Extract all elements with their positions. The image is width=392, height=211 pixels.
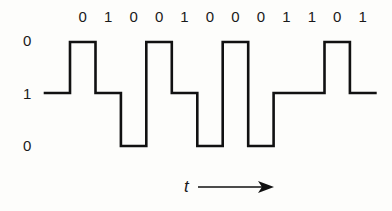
bit-label: 1: [308, 8, 316, 25]
waveform-diagram: 010010001101 010 t: [0, 0, 392, 211]
bit-label: 0: [206, 8, 214, 25]
bit-label: 0: [231, 8, 239, 25]
bit-label: 0: [333, 8, 341, 25]
time-axis: t: [184, 177, 274, 196]
bit-label: 1: [104, 8, 112, 25]
bit-label: 0: [257, 8, 265, 25]
bit-label: 1: [180, 8, 188, 25]
level-labels: 010: [23, 32, 31, 154]
signal-waveform: [45, 42, 375, 146]
level-label-low: 0: [23, 137, 31, 154]
bit-labels: 010010001101: [79, 8, 367, 25]
bit-label: 0: [129, 8, 137, 25]
bit-label: 0: [79, 8, 87, 25]
time-axis-label: t: [184, 177, 190, 196]
level-label-mid: 1: [23, 85, 31, 102]
bit-label: 1: [282, 8, 290, 25]
bit-label: 0: [155, 8, 163, 25]
level-label-high: 0: [23, 32, 31, 49]
bit-label: 1: [359, 8, 367, 25]
